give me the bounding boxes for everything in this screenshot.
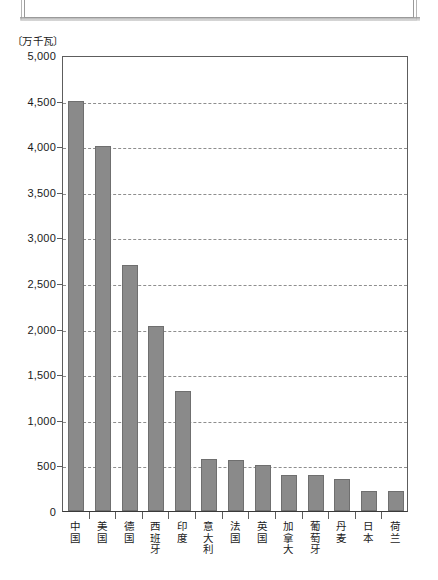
y-axis-tick-label: 3,500 — [27, 187, 56, 199]
x-axis-tick-label: 印度 — [175, 521, 188, 544]
y-axis-tick-label: 2,000 — [27, 324, 56, 336]
x-axis-tick-mark — [302, 512, 303, 519]
bar — [148, 326, 164, 511]
bar — [388, 491, 404, 511]
x-axis-tick-label: 德国 — [122, 521, 135, 544]
plot-area — [62, 56, 408, 512]
bar — [255, 465, 271, 511]
gridline — [63, 194, 407, 195]
bar — [122, 265, 138, 511]
bar — [68, 101, 84, 511]
x-axis-tick-label: 葡萄牙 — [308, 521, 321, 556]
x-axis-tick-mark — [142, 512, 143, 519]
x-axis-tick-label: 英国 — [255, 521, 268, 544]
x-axis-tick-label: 法国 — [229, 521, 242, 544]
gridline — [63, 285, 407, 286]
bar — [361, 491, 377, 511]
bar — [175, 391, 191, 511]
bar — [308, 475, 324, 511]
x-axis-tick-mark — [222, 512, 223, 519]
y-axis-tick-mark — [57, 375, 62, 376]
y-axis-tick-label: 1,000 — [27, 415, 56, 427]
y-axis-tick-label: 4,500 — [27, 96, 56, 108]
x-axis-tick-mark — [248, 512, 249, 519]
gridline — [63, 239, 407, 240]
bar-chart: 5,0004,5004,0003,5003,0002,5002,0001,500… — [0, 0, 438, 580]
gridline — [63, 103, 407, 104]
y-axis-tick-label: 500 — [37, 460, 56, 472]
x-axis-tick-label: 丹麦 — [335, 521, 348, 544]
y-axis-tick-mark — [57, 421, 62, 422]
x-axis-tick-label: 意大利 — [202, 521, 215, 556]
y-axis-tick-mark — [57, 102, 62, 103]
x-axis-tick-mark — [381, 512, 382, 519]
x-axis-tick-mark — [115, 512, 116, 519]
x-axis-tick-label: 荷兰 — [388, 521, 401, 544]
x-axis-tick-mark — [89, 512, 90, 519]
x-axis-tick-mark — [195, 512, 196, 519]
bar — [281, 475, 297, 511]
y-axis-tick-label: 1,500 — [27, 369, 56, 381]
x-axis-tick-label: 中国 — [69, 521, 82, 544]
bar — [95, 146, 111, 511]
x-axis-tick-mark — [168, 512, 169, 519]
y-axis-tick-label: 3,000 — [27, 232, 56, 244]
y-axis-tick-mark — [57, 330, 62, 331]
x-axis-tick-label: 日本 — [362, 521, 375, 544]
x-axis-tick-mark — [275, 512, 276, 519]
y-axis-tick-mark — [57, 466, 62, 467]
bar — [201, 459, 217, 511]
y-axis-tick-mark — [57, 147, 62, 148]
gridline — [63, 422, 407, 423]
y-axis-tick-mark — [57, 238, 62, 239]
bar — [334, 479, 350, 511]
gridline — [63, 376, 407, 377]
gridline — [63, 148, 407, 149]
x-axis-tick-label: 美国 — [95, 521, 108, 544]
y-axis-tick-mark — [57, 284, 62, 285]
y-axis-tick-mark — [57, 193, 62, 194]
y-axis-tick-label: 5,000 — [27, 50, 56, 62]
gridline — [63, 331, 407, 332]
y-axis-tick-label: 4,000 — [27, 141, 56, 153]
y-axis-tick-label: 2,500 — [27, 278, 56, 290]
bar — [228, 460, 244, 511]
x-axis-tick-mark — [355, 512, 356, 519]
x-axis-tick-label: 西班牙 — [149, 521, 162, 556]
x-axis-tick-mark — [328, 512, 329, 519]
y-axis-tick-label: 0 — [50, 506, 56, 518]
x-axis-tick-label: 加拿大 — [282, 521, 295, 556]
